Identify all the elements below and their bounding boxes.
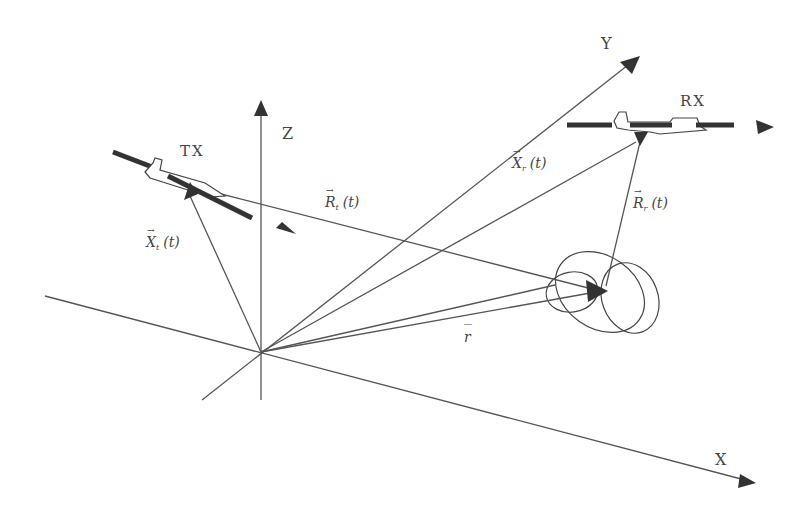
rx-range-subscript: r	[644, 204, 648, 213]
target-position-symbol: r	[464, 329, 471, 345]
axes	[45, 56, 756, 488]
target-position-label: r	[464, 329, 471, 345]
tx-position-subscript: t	[156, 243, 159, 252]
vectors	[190, 142, 640, 352]
tx-fuselage-icon	[145, 158, 225, 197]
transmitter-label: TX	[180, 142, 205, 160]
rx-position-arrow-icon	[634, 132, 648, 146]
z-axis-label: Z	[282, 124, 293, 143]
transmitter-aircraft	[113, 152, 296, 234]
tx-range-subscript: t	[336, 203, 339, 212]
z-axis-arrow-icon	[254, 100, 268, 116]
rx-range-symbol: R	[633, 195, 644, 211]
rx-position-arg: (t)	[530, 155, 547, 171]
receiver-aircraft	[567, 112, 774, 146]
x-axis-label: X	[715, 450, 726, 469]
tx-range-symbol: R	[325, 194, 336, 210]
rx-range-arg: (t)	[651, 195, 668, 211]
y-axis-arrow-icon	[620, 56, 640, 74]
tx-wing	[168, 176, 252, 218]
receiver-label: RX	[680, 92, 706, 110]
target-position-vector	[261, 292, 596, 352]
rx-position-subscript: r	[522, 164, 526, 173]
tx-position-arg: (t)	[163, 234, 180, 250]
rx-position-label: Xr(t)	[512, 155, 546, 173]
tx-range-vector	[190, 186, 596, 290]
rx-range-label: Rr(t)	[633, 195, 668, 213]
tx-position-symbol: X	[146, 234, 156, 250]
tx-range-label: Rt(t)	[325, 194, 359, 212]
bistatic-geometry-diagram	[0, 0, 812, 518]
rx-motion-arrow-icon	[756, 120, 774, 134]
rx-position-vector	[261, 142, 636, 352]
tx-position-label: Xt(t)	[146, 234, 180, 252]
rx-position-symbol: X	[512, 155, 522, 171]
tx-range-arg: (t)	[343, 194, 360, 210]
tx-motion-arrow-icon	[276, 222, 296, 234]
y-axis-label: Y	[601, 34, 612, 53]
x-axis-arrow-icon	[738, 474, 756, 488]
